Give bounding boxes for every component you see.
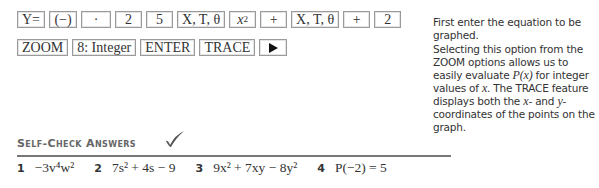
answer-text: −3v⁴w² bbox=[35, 160, 75, 176]
key-decimal: · bbox=[81, 11, 111, 28]
answer-2: 2 7s² + 4s − 9 bbox=[94, 160, 175, 176]
divider bbox=[17, 155, 451, 157]
note-zoom-trace: Selecting this option from the ZOOM opti… bbox=[433, 43, 595, 134]
key-8-integer: 8: Integer bbox=[72, 39, 136, 56]
keystroke-row-2: ZOOM 8: Integer ENTER TRACE bbox=[17, 39, 287, 56]
key-zoom: ZOOM bbox=[17, 39, 68, 56]
key-x-squared: x2 bbox=[229, 11, 256, 28]
self-check-answers: 1 −3v⁴w² 2 7s² + 4s − 9 3 9x² + 7xy − 8y… bbox=[17, 160, 407, 176]
self-check-header: Self-Check Answers bbox=[17, 132, 186, 150]
key-right-arrow bbox=[259, 39, 287, 56]
answer-number: 3 bbox=[195, 162, 203, 175]
key-x-t-theta-2: X, T, θ bbox=[291, 11, 339, 28]
key-2: 2 bbox=[115, 11, 142, 28]
key-x-t-theta: X, T, θ bbox=[177, 11, 225, 28]
answer-text: P(−2) = 5 bbox=[335, 160, 387, 176]
note-text: - and bbox=[528, 95, 557, 107]
key-2-second: 2 bbox=[374, 11, 401, 28]
answer-4: 4 P(−2) = 5 bbox=[317, 160, 387, 176]
answer-text: 7s² + 4s − 9 bbox=[112, 160, 176, 176]
note-math: P(x) bbox=[513, 68, 533, 82]
key-plus-2: + bbox=[343, 11, 370, 28]
keystroke-row-1: Y= (−) · 2 5 X, T, θ x2 + X, T, θ + 2 bbox=[17, 11, 401, 28]
answer-1: 1 −3v⁴w² bbox=[17, 160, 74, 176]
key-negative: (−) bbox=[49, 11, 77, 28]
key-trace: TRACE bbox=[199, 39, 255, 56]
answer-number: 2 bbox=[94, 162, 102, 175]
key-5: 5 bbox=[146, 11, 173, 28]
key-plus: + bbox=[260, 11, 287, 28]
answer-3: 3 9x² + 7xy − 8y² bbox=[195, 160, 297, 176]
right-arrow-icon bbox=[267, 42, 279, 54]
self-check-title: Self-Check Answers bbox=[17, 137, 136, 150]
answer-text: 9x² + 7xy − 8y² bbox=[213, 160, 297, 176]
key-enter: ENTER bbox=[140, 39, 195, 56]
answer-number: 1 bbox=[17, 162, 25, 175]
note-enter-equation: First enter the equation to be graphed. bbox=[433, 16, 599, 42]
key-y-equals: Y= bbox=[17, 11, 45, 28]
checkmark-icon bbox=[164, 130, 186, 148]
answer-number: 4 bbox=[317, 162, 325, 175]
